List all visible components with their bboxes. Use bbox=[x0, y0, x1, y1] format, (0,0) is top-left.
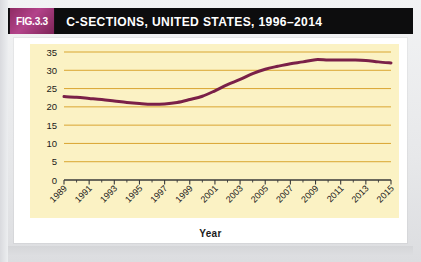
line-chart-svg: 0510152025303519891991199319951997199920… bbox=[22, 44, 399, 224]
y-tick-label: 5 bbox=[52, 156, 57, 167]
paper-gutter bbox=[0, 0, 8, 262]
figure-root: FIG.3.3 C-SECTIONS, UNITED STATES, 1996–… bbox=[0, 0, 421, 262]
chart-card: Per 100 05101520253035198919911993199519… bbox=[14, 38, 407, 243]
x-axis-title: Year bbox=[0, 228, 421, 239]
plot-area: 0510152025303519891991199319951997199920… bbox=[22, 44, 399, 224]
y-tick-label: 25 bbox=[46, 83, 57, 94]
y-tick-label: 0 bbox=[52, 175, 57, 186]
card-bottom-shadow bbox=[8, 246, 413, 256]
y-tick-label: 20 bbox=[46, 101, 57, 112]
y-tick-label: 15 bbox=[46, 120, 57, 131]
figure-header-bar: FIG.3.3 C-SECTIONS, UNITED STATES, 1996–… bbox=[8, 8, 413, 34]
figure-number-badge: FIG.3.3 bbox=[10, 8, 54, 34]
figure-title: C-SECTIONS, UNITED STATES, 1996–2014 bbox=[56, 8, 388, 34]
y-tick-label: 10 bbox=[46, 138, 57, 149]
y-tick-label: 35 bbox=[46, 47, 57, 58]
y-tick-label: 30 bbox=[46, 65, 57, 76]
